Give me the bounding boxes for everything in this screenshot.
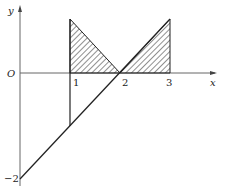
- tick-label-2: 2: [122, 77, 128, 88]
- y-axis-label: y: [7, 5, 14, 16]
- line-y-equals-x-minus-2: [20, 19, 170, 179]
- origin-label: O: [7, 68, 15, 79]
- y-axis: [18, 5, 22, 186]
- shaded-region-left: [70, 19, 120, 73]
- tick-label-1: 1: [73, 77, 79, 88]
- diagram-canvas: y x O 1 2 3 −2: [0, 0, 227, 189]
- x-axis-label: x: [210, 77, 216, 88]
- tick-label-3: 3: [166, 77, 172, 88]
- tick-label-neg2: −2: [4, 173, 19, 184]
